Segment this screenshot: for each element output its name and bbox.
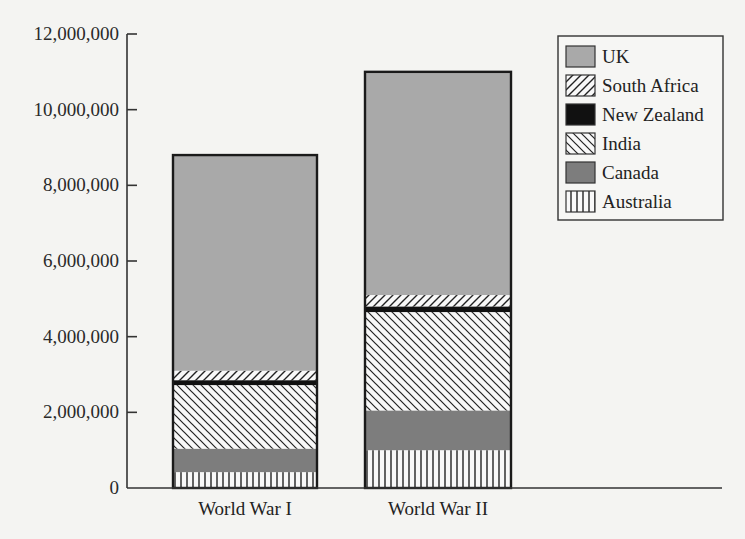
y-tick-label: 10,000,000	[34, 99, 120, 120]
bars	[173, 72, 511, 488]
legend-label: South Africa	[602, 75, 699, 96]
y-axis: 02,000,0004,000,0006,000,0008,000,00010,…	[34, 23, 138, 498]
segment-uk	[365, 72, 511, 295]
y-tick-label: 6,000,000	[43, 250, 119, 271]
legend-label: Australia	[602, 191, 672, 212]
legend-label: Canada	[602, 162, 660, 183]
legend-item-new-zealand: New Zealand	[566, 104, 704, 125]
legend-swatch	[566, 104, 595, 125]
x-category-label: World War II	[388, 498, 488, 519]
legend-swatch	[566, 191, 595, 212]
y-tick-label: 12,000,000	[34, 23, 120, 44]
legend-label: New Zealand	[602, 104, 704, 125]
segment-south-africa	[173, 371, 317, 380]
legend-swatch	[566, 162, 595, 183]
segment-india	[365, 312, 511, 410]
legend-swatch	[566, 75, 595, 96]
legend-swatch	[566, 133, 595, 154]
legend-item-south-africa: South Africa	[566, 75, 699, 96]
stacked-bar-chart: 02,000,0004,000,0006,000,0008,000,00010,…	[0, 0, 745, 539]
legend-swatch	[566, 46, 595, 67]
segment-new-zealand	[173, 380, 317, 385]
segment-india	[173, 385, 317, 449]
bar-world-war-i	[173, 155, 317, 488]
y-tick-label: 4,000,000	[43, 326, 119, 347]
x-axis: World War IWorld War II	[127, 488, 722, 519]
bar-world-war-ii	[365, 72, 511, 488]
segment-canada	[365, 410, 511, 450]
segment-new-zealand	[365, 306, 511, 312]
y-tick-label: 8,000,000	[43, 174, 119, 195]
segment-australia	[365, 450, 511, 488]
segment-south-africa	[365, 295, 511, 306]
x-category-label: World War I	[198, 498, 292, 519]
legend: UKSouth AfricaNew ZealandIndiaCanadaAust…	[558, 36, 723, 220]
legend-label: UK	[602, 46, 630, 67]
legend-label: India	[602, 133, 642, 154]
y-tick-label: 2,000,000	[43, 401, 119, 422]
segment-canada	[173, 449, 317, 472]
legend-item-australia: Australia	[566, 191, 672, 212]
legend-item-india: India	[566, 133, 642, 154]
legend-item-canada: Canada	[566, 162, 660, 183]
segment-australia	[173, 472, 317, 488]
segment-uk	[173, 155, 317, 371]
y-tick-label: 0	[110, 477, 120, 498]
